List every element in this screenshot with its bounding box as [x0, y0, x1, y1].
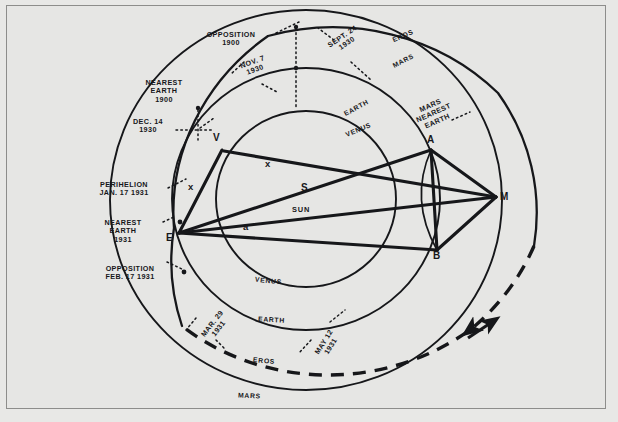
leader-may12-b — [330, 310, 345, 322]
line-b-m — [437, 197, 496, 250]
line-e-b — [179, 233, 437, 250]
figure-page: EROS MARS EARTH VENUS VENUS EARTH EROS M… — [0, 0, 618, 422]
leader-mar29-b — [216, 340, 226, 350]
earth-orbit — [172, 68, 440, 330]
eros-orbit — [171, 27, 536, 375]
orbit-diagram-svg — [0, 0, 618, 422]
leader-nov7-b — [262, 84, 277, 92]
venus-orbit — [216, 111, 396, 287]
leader-mars-nearest — [452, 112, 470, 120]
triangulation-lines — [179, 150, 496, 250]
leader-dec14-d — [200, 118, 214, 128]
leader-nov7-a — [231, 62, 244, 74]
line-e-m — [179, 197, 496, 233]
leader-perihelion — [168, 179, 186, 188]
mars-orbit — [110, 10, 502, 390]
leader-may12-a — [300, 340, 311, 352]
leader-sept24-a — [318, 28, 334, 40]
diagram-stage: EROS MARS EARTH VENUS VENUS EARTH EROS M… — [0, 0, 618, 422]
leader-opposition-1931 — [167, 262, 184, 270]
